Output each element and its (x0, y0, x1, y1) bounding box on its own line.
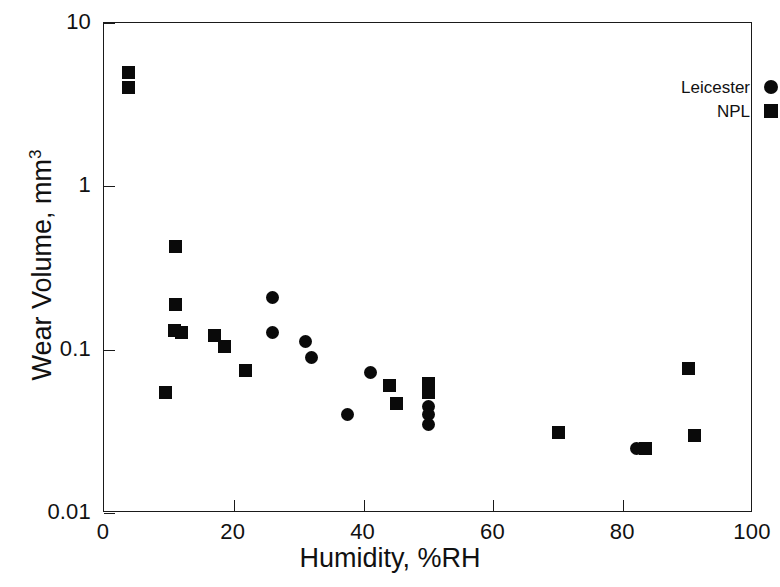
data-point-npl (383, 379, 396, 392)
data-point-npl (122, 66, 135, 79)
x-axis-tick-label: 0 (63, 521, 143, 543)
data-point-npl (639, 442, 652, 455)
data-point-npl (169, 240, 182, 253)
legend: LeicesterNPL (660, 75, 778, 123)
y-axis-tick (104, 513, 115, 514)
data-point-npl (159, 386, 172, 399)
data-point-npl (422, 386, 435, 399)
data-point-npl (218, 340, 231, 353)
wear-volume-vs-humidity-chart: Wear Volume, mm3 Humidity, %RH 0.010.111… (0, 0, 780, 587)
y-axis-tick (104, 23, 115, 24)
data-point-leicester (364, 366, 377, 379)
x-axis-tick-label: 40 (323, 521, 403, 543)
x-axis-tick (234, 500, 235, 511)
data-point-npl (390, 397, 403, 410)
y-axis-tick-label: 0.01 (0, 501, 91, 523)
data-point-leicester (422, 418, 435, 431)
data-point-leicester (299, 335, 312, 348)
x-axis-title: Humidity, %RH (0, 543, 780, 573)
legend-marker-circle-icon (764, 80, 778, 94)
x-axis-tick-label: 20 (193, 521, 273, 543)
data-point-npl (552, 426, 565, 439)
legend-item: Leicester (660, 75, 778, 99)
y-axis-tick-label: 10 (0, 11, 91, 33)
y-axis-title-exponent: 3 (26, 149, 45, 158)
x-axis-tick-label: 100 (712, 521, 780, 543)
data-point-npl (688, 429, 701, 442)
legend-marker-square-icon (764, 104, 778, 118)
data-point-npl (175, 326, 188, 339)
data-point-leicester (341, 408, 354, 421)
data-point-npl (682, 362, 695, 375)
x-axis-tick-label: 60 (452, 521, 532, 543)
data-point-leicester (266, 291, 279, 304)
data-point-npl (239, 364, 252, 377)
plot-area: LeicesterNPL (103, 22, 752, 512)
y-axis-title: Wear Volume, mm3 (27, 55, 57, 475)
data-point-npl (169, 298, 182, 311)
y-axis-tick (104, 186, 115, 187)
data-point-leicester (266, 326, 279, 339)
x-axis-tick (364, 500, 365, 511)
y-axis-tick-label: 0.1 (0, 338, 91, 360)
x-axis-tick (623, 500, 624, 511)
y-axis-tick-label: 1 (0, 174, 91, 196)
y-axis-tick (104, 350, 115, 351)
legend-item-label: NPL (717, 103, 764, 120)
data-point-npl (122, 81, 135, 94)
x-axis-tick-label: 80 (582, 521, 662, 543)
legend-item-label: Leicester (681, 79, 764, 96)
x-axis-tick (493, 500, 494, 511)
data-point-leicester (305, 351, 318, 364)
legend-item: NPL (660, 99, 778, 123)
